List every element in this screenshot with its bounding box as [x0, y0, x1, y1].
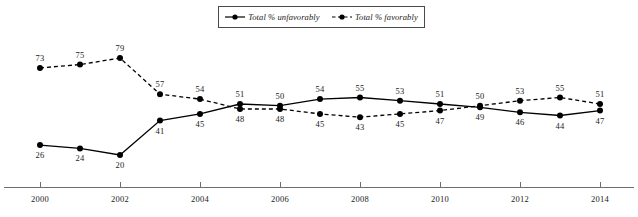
data-point	[317, 96, 323, 102]
x-axis-tick	[360, 182, 361, 188]
data-label: 53	[396, 86, 405, 96]
x-axis-tick-label: 2012	[511, 194, 529, 204]
x-axis-tick-label: 2010	[431, 194, 449, 204]
data-label: 48	[236, 114, 245, 124]
data-label: 53	[516, 86, 525, 96]
data-label: 57	[156, 79, 165, 89]
data-label: 20	[116, 160, 125, 170]
data-point	[157, 118, 163, 124]
data-label: 47	[436, 116, 445, 126]
data-point	[37, 142, 43, 148]
data-label: 79	[116, 43, 125, 53]
data-label: 47	[596, 116, 605, 126]
x-axis-tick	[40, 182, 41, 188]
data-label: 48	[276, 114, 285, 124]
data-label: 54	[196, 84, 205, 94]
data-point	[157, 91, 163, 97]
data-label: 44	[556, 121, 565, 131]
data-label: 46	[516, 117, 525, 127]
data-label: 73	[36, 53, 45, 63]
data-point	[357, 114, 363, 120]
data-point	[437, 108, 443, 114]
x-axis-tick-label: 2000	[31, 194, 49, 204]
data-point	[197, 96, 203, 102]
data-label: 45	[196, 119, 205, 129]
data-label: 49	[476, 112, 485, 122]
data-point	[37, 65, 43, 71]
x-axis-tick-label: 2002	[111, 194, 129, 204]
data-point	[437, 101, 443, 107]
data-label: 55	[356, 83, 365, 93]
data-point	[117, 55, 123, 61]
data-label: 24	[76, 153, 85, 163]
data-point	[597, 108, 603, 114]
data-label: 51	[236, 89, 245, 99]
data-label: 75	[76, 50, 85, 60]
x-axis-tick	[200, 182, 201, 188]
data-label: 50	[276, 91, 285, 101]
series-lines	[0, 0, 638, 217]
x-axis-tick	[600, 182, 601, 188]
x-axis-tick-label: 2008	[351, 194, 369, 204]
data-point	[317, 111, 323, 117]
data-label: 26	[36, 150, 45, 160]
data-point	[557, 113, 563, 119]
data-point	[197, 111, 203, 117]
x-axis-tick	[440, 182, 441, 188]
data-point	[397, 111, 403, 117]
data-point	[117, 152, 123, 158]
data-point	[357, 95, 363, 101]
data-label: 51	[436, 89, 445, 99]
data-point	[397, 98, 403, 104]
data-point	[517, 98, 523, 104]
x-axis-tick	[280, 182, 281, 188]
data-label: 43	[356, 122, 365, 132]
data-point	[77, 145, 83, 151]
data-point	[477, 103, 483, 109]
x-axis-tick	[120, 182, 121, 188]
data-point	[557, 95, 563, 101]
x-axis-line	[4, 187, 634, 188]
data-label: 54	[316, 84, 325, 94]
x-axis-tick-label: 2004	[191, 194, 209, 204]
data-label: 55	[556, 83, 565, 93]
chart-container: Total % unfavorably Total % favorably 26…	[0, 0, 638, 217]
data-label: 50	[476, 91, 485, 101]
data-point	[517, 109, 523, 115]
data-label: 45	[396, 119, 405, 129]
data-label: 45	[316, 119, 325, 129]
x-axis-tick	[520, 182, 521, 188]
data-label: 51	[596, 89, 605, 99]
plot-area: 2673247520794157455451485048544555435345…	[0, 0, 638, 217]
data-point	[77, 62, 83, 68]
data-label: 41	[156, 126, 165, 136]
data-point	[597, 101, 603, 107]
data-point	[237, 106, 243, 112]
data-point	[277, 106, 283, 112]
x-axis-tick-label: 2014	[591, 194, 609, 204]
x-axis-tick-label: 2006	[271, 194, 289, 204]
